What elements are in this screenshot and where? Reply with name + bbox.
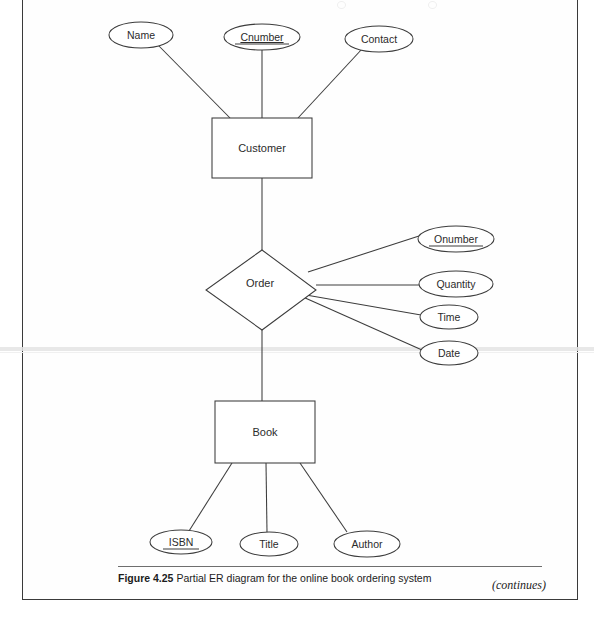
edge-name-customer (158, 45, 230, 118)
continues-note: (continues) (492, 578, 546, 593)
attribute-onumber[interactable]: Onumber (418, 226, 494, 252)
attribute-cnumber-label: Cnumber (240, 31, 284, 43)
edge-order-time (306, 295, 421, 315)
attribute-date-label: Date (438, 347, 460, 359)
edge-contact-customer (298, 49, 362, 118)
attribute-author-label: Author (352, 538, 383, 550)
attribute-quantity-label: Quantity (436, 278, 476, 290)
attribute-time[interactable]: Time (420, 305, 478, 329)
caption-divider (118, 566, 542, 567)
attribute-isbn-label: ISBN (169, 536, 194, 548)
attribute-isbn[interactable]: ISBN (150, 530, 212, 554)
attribute-contact-label: Contact (361, 33, 397, 45)
attribute-name-label: Name (127, 29, 155, 41)
entity-customer[interactable]: Customer (212, 118, 312, 178)
figure-caption-text: Partial ER diagram for the online book o… (176, 572, 431, 584)
figure-caption: Figure 4.25 Partial ER diagram for the o… (118, 572, 542, 585)
attribute-quantity[interactable]: Quantity (419, 271, 493, 297)
entity-book-label: Book (252, 426, 278, 438)
edge-book-isbn (189, 463, 232, 531)
attribute-author[interactable]: Author (334, 531, 400, 557)
relationship-order[interactable]: Order (206, 250, 316, 330)
attribute-cnumber[interactable]: Cnumber (224, 24, 300, 50)
entity-book[interactable]: Book (215, 401, 315, 463)
attribute-date[interactable]: Date (420, 341, 478, 365)
relationship-order-diamond[interactable] (206, 250, 316, 330)
figure-page: Customer Book Order Name Cnumber Contact (0, 0, 594, 617)
attribute-time-label: Time (438, 311, 461, 323)
relationship-order-label: Order (246, 277, 274, 289)
attribute-title-label: Title (259, 538, 279, 550)
edge-book-author (300, 463, 347, 532)
attribute-contact[interactable]: Contact (345, 26, 413, 52)
entity-customer-label: Customer (238, 142, 286, 154)
attribute-onumber-label: Onumber (434, 233, 478, 245)
figure-number: Figure 4.25 (118, 572, 173, 584)
er-diagram-canvas: Customer Book Order Name Cnumber Contact (0, 0, 594, 617)
figure-caption-block: Figure 4.25 Partial ER diagram for the o… (118, 566, 542, 585)
attribute-name[interactable]: Name (109, 22, 173, 48)
edge-order-onumber (308, 236, 419, 272)
edge-book-title (266, 463, 267, 532)
attribute-title[interactable]: Title (240, 532, 298, 556)
